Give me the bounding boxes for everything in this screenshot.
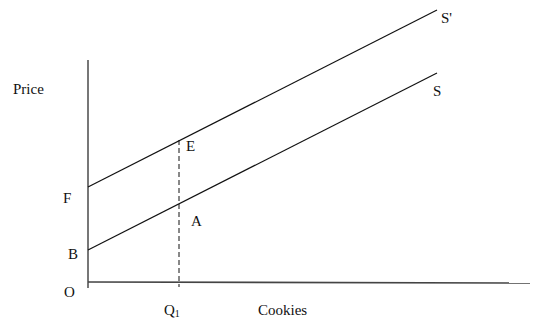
x-axis-label: Cookies bbox=[258, 302, 307, 318]
origin-label: O bbox=[64, 284, 75, 300]
q1-subscript: 1 bbox=[175, 308, 180, 319]
supply-curve-s-prime bbox=[88, 10, 437, 187]
s-label: S bbox=[433, 83, 441, 99]
q1-label: Q1 bbox=[164, 302, 180, 319]
supply-shift-chart: Price F B O Q1 Cookies E A S' S bbox=[0, 0, 540, 329]
q1-main: Q bbox=[164, 302, 175, 318]
x-axis bbox=[88, 282, 530, 283]
supply-curve-s bbox=[88, 73, 437, 250]
f-label: F bbox=[63, 190, 71, 206]
a-point-label: A bbox=[191, 213, 202, 229]
b-label: B bbox=[68, 246, 78, 262]
e-point-label: E bbox=[186, 138, 195, 154]
s-prime-label: S' bbox=[441, 10, 452, 26]
y-axis-label: Price bbox=[13, 81, 44, 97]
